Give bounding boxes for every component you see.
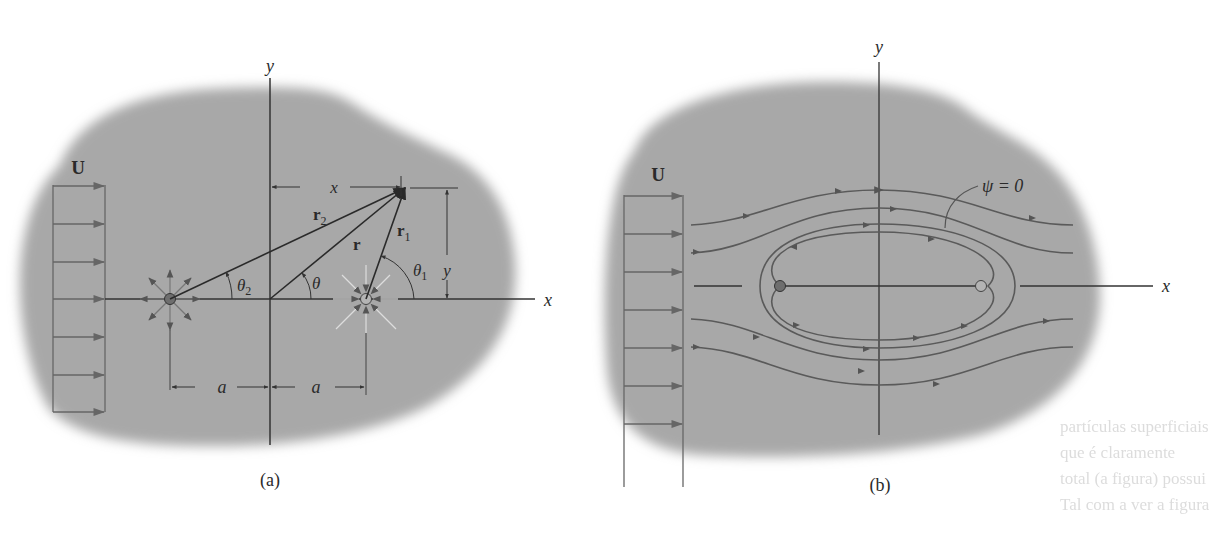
- figure-canvas: partículas superficiais que é claramente…: [0, 0, 1209, 534]
- x-axis-label-b: x: [1161, 276, 1170, 296]
- svg-text:Tal com a ver a figura: Tal com a ver a figura: [1060, 495, 1209, 514]
- flow-region-b: [605, 82, 1100, 457]
- x-axis-label-a: x: [543, 290, 552, 310]
- svg-text:total (a figura) possui: total (a figura) possui: [1060, 469, 1206, 488]
- dimension-x-label: x: [329, 178, 338, 197]
- sink-dot-b: [976, 281, 987, 292]
- source-dot-b: [775, 281, 786, 292]
- vector-r-label: r: [353, 235, 361, 254]
- spacing-left-label: a: [218, 377, 227, 397]
- y-axis-label-a: y: [264, 56, 274, 76]
- dimension-y-label: y: [441, 261, 451, 280]
- angle-theta-label: θ: [312, 274, 320, 293]
- spacing-right-label: a: [312, 377, 321, 397]
- background-text: partículas superficiais que é claramente…: [1060, 417, 1209, 514]
- caption-a: (a): [260, 470, 280, 491]
- uniform-flow-label-a: U: [71, 157, 85, 178]
- panel-a: U y x: [20, 56, 552, 491]
- y-axis-label-b: y: [873, 37, 883, 57]
- uniform-flow-label-b: U: [651, 164, 665, 185]
- dividing-streamline-label: ψ = 0: [982, 176, 1023, 196]
- caption-b: (b): [870, 475, 891, 496]
- svg-text:partículas superficiais: partículas superficiais: [1060, 417, 1209, 436]
- svg-text:que é claramente: que é claramente: [1060, 443, 1175, 462]
- flow-region-a: [20, 87, 516, 446]
